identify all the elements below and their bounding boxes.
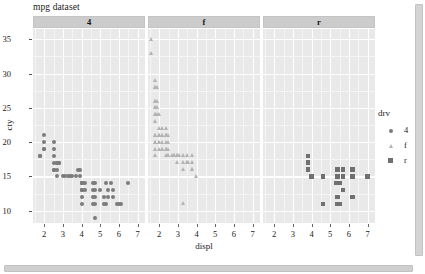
data-point <box>104 181 108 185</box>
legend-label: f <box>404 141 407 150</box>
x-tick-label: 4 <box>79 229 83 239</box>
gridline-horizontal <box>148 56 260 57</box>
x-tick-label: 2 <box>272 229 276 239</box>
gridline-horizontal <box>148 39 260 40</box>
y-tick-label: 15 <box>3 171 12 181</box>
data-point <box>190 167 194 171</box>
legend-title: drv <box>378 108 418 118</box>
data-point <box>166 133 170 137</box>
data-point <box>153 78 157 82</box>
x-tick-mark <box>349 224 350 227</box>
data-point <box>190 153 194 157</box>
data-point <box>309 174 313 178</box>
gridline-horizontal <box>263 176 375 177</box>
gridline-horizontal <box>148 194 260 195</box>
gridline-horizontal <box>263 211 375 212</box>
legend: drv 4 f r <box>378 108 418 168</box>
gridline-horizontal <box>263 39 375 40</box>
gridline-horizontal <box>148 108 260 109</box>
x-tick-label: 7 <box>250 229 254 239</box>
x-tick-label: 3 <box>61 229 65 239</box>
x-tick-label: 3 <box>176 229 180 239</box>
data-point <box>93 188 97 192</box>
vertical-scrollbar[interactable] <box>413 0 425 262</box>
data-point <box>341 167 345 171</box>
data-point <box>155 105 159 109</box>
x-tick-mark <box>330 224 331 227</box>
data-point <box>106 195 110 199</box>
vertical-scrollbar-thumb[interactable] <box>415 4 423 256</box>
x-tick-label: 2 <box>157 229 161 239</box>
gridline-horizontal <box>33 176 145 177</box>
data-point <box>155 99 159 103</box>
x-tick-label: 5 <box>328 229 332 239</box>
data-point <box>185 153 189 157</box>
x-tick-label: 5 <box>98 229 102 239</box>
gridline-horizontal <box>263 108 375 109</box>
gridline-horizontal <box>148 211 260 212</box>
x-tick-mark <box>178 224 179 227</box>
x-tick-mark <box>234 224 235 227</box>
data-point <box>164 126 168 130</box>
data-point <box>111 195 115 199</box>
legend-label: r <box>404 156 407 165</box>
gridline-horizontal <box>148 176 260 177</box>
data-point <box>365 174 369 178</box>
facet-panel-f <box>148 29 260 223</box>
data-point <box>321 174 325 178</box>
data-point <box>341 174 345 178</box>
data-point <box>181 201 185 205</box>
y-tick-mark <box>29 108 32 109</box>
y-axis-title: cty <box>4 110 14 140</box>
data-point <box>109 181 113 185</box>
gridline-horizontal <box>263 194 375 195</box>
gridline-horizontal <box>33 39 145 40</box>
x-tick-mark <box>44 224 45 227</box>
gridline-horizontal <box>33 142 145 143</box>
data-point <box>350 195 354 199</box>
data-point <box>149 51 153 55</box>
gridline-horizontal <box>263 142 375 143</box>
x-tick-label: 6 <box>347 229 351 239</box>
data-point <box>335 195 339 199</box>
y-tick-mark <box>29 211 32 212</box>
data-point <box>80 202 84 206</box>
data-point <box>80 195 84 199</box>
x-tick-label: 6 <box>117 229 121 239</box>
x-tick-mark <box>274 224 275 227</box>
x-tick-mark <box>119 224 120 227</box>
data-point <box>104 202 108 206</box>
gridline-horizontal <box>33 74 145 75</box>
x-tick-label: 2 <box>42 229 46 239</box>
data-point <box>106 188 110 192</box>
gridline-horizontal <box>148 91 260 92</box>
data-point <box>153 119 157 123</box>
horizontal-scrollbar-thumb[interactable] <box>4 265 413 272</box>
data-point <box>149 37 153 41</box>
y-tick-label: 35 <box>3 34 12 44</box>
data-point <box>93 202 97 206</box>
data-point <box>55 174 59 178</box>
x-tick-label: 6 <box>232 229 236 239</box>
data-point <box>38 154 42 158</box>
data-point <box>306 167 310 171</box>
x-tick-mark <box>159 224 160 227</box>
x-tick-label: 4 <box>309 229 313 239</box>
gridline-horizontal <box>33 194 145 195</box>
y-tick-mark <box>29 142 32 143</box>
facet-strip-label: f <box>203 18 206 27</box>
data-point <box>175 160 179 164</box>
horizontal-scrollbar[interactable] <box>0 262 425 274</box>
data-point <box>93 216 97 220</box>
y-tick-label: 30 <box>3 69 12 79</box>
plot-viewer: mpg dataset 4 f r 101520253035 234567234… <box>0 0 425 274</box>
data-point <box>55 168 59 172</box>
data-point <box>57 161 61 165</box>
data-point <box>341 188 345 192</box>
x-tick-mark <box>82 224 83 227</box>
x-tick-mark <box>368 224 369 227</box>
gridline-horizontal <box>33 56 145 57</box>
x-tick-label: 4 <box>194 229 198 239</box>
data-point <box>119 202 123 206</box>
data-point <box>350 167 354 171</box>
